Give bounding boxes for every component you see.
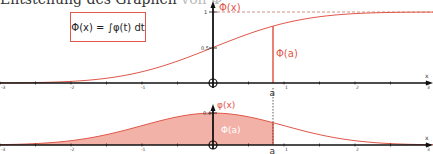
x-tick-label: 1 (285, 85, 288, 90)
top-plot: -3-2-1123 (0, 1, 433, 90)
x-tick-label: -2 (70, 85, 75, 90)
bottom-y-arrow-icon (211, 104, 216, 111)
diagram-canvas: -3-2-1123 -3-2-1123 Φ(x) 1 0.5 Φ(a) x a … (0, 0, 433, 154)
x-tick-label: 2 (356, 147, 359, 152)
phi-a-label: Φ(a) (276, 48, 298, 59)
x-tick-label: -3 (1, 147, 6, 152)
x-tick-label: 3 (427, 147, 430, 152)
y-tick-0-4: 0.4 (203, 110, 211, 116)
a-label-bottom: a (270, 146, 276, 154)
pdf-label: φ(x) (217, 100, 235, 110)
y-tick-0-5: 0.5 (201, 45, 209, 51)
x-tick-label: 1 (285, 147, 288, 152)
x-tick-label: -1 (141, 147, 146, 152)
x-tick-label: 3 (427, 85, 430, 90)
x-tick-label: 2 (356, 85, 359, 90)
y-tick-1: 1 (204, 9, 207, 15)
cdf-curve (0, 12, 433, 83)
x-tick-label: -2 (70, 147, 75, 152)
bottom-x-label: x (425, 134, 429, 141)
area-label: Φ(a) (221, 125, 241, 135)
x-tick-label: -3 (1, 85, 6, 90)
a-label-top: a (270, 88, 276, 98)
x-tick-label: -1 (141, 85, 146, 90)
cdf-label: Φ(x) (219, 2, 241, 13)
bottom-plot: -3-2-1123 (0, 88, 433, 152)
top-y-arrow-icon (211, 1, 216, 8)
top-x-label: x (425, 72, 429, 79)
